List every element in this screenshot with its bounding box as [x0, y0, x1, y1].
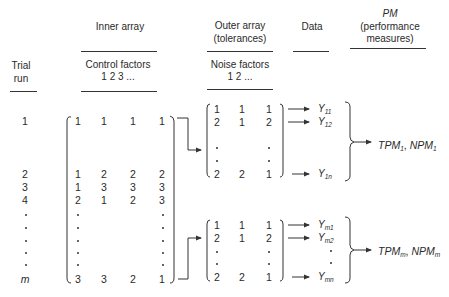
row-1-connector-arrow: [177, 118, 201, 150]
brace-group-1: [345, 102, 354, 181]
inner-array-left-bracket: [67, 117, 71, 283]
inner-array-right-bracket: [170, 116, 174, 283]
row-m-connector-arrow: [178, 238, 201, 279]
diagram-lines: [0, 0, 449, 297]
brace-group-m: [345, 217, 354, 283]
